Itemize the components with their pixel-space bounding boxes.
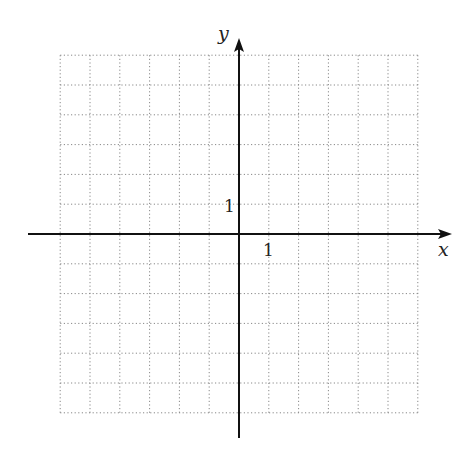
y-axis-label: y [217, 22, 229, 44]
coordinate-plane: x y 1 1 [0, 0, 472, 454]
x-tick-label: 1 [263, 240, 274, 260]
x-axis-label: x [438, 238, 449, 260]
y-tick-label: 1 [224, 196, 235, 216]
